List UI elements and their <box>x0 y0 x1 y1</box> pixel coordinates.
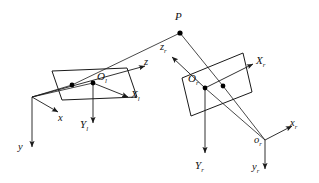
projection-rays <box>32 33 265 140</box>
right-camera-x-axis-line <box>265 126 292 140</box>
right-camera-y-axis-label: yr <box>252 162 259 175</box>
right-projected-point-marker <box>221 84 226 89</box>
left-principal-point-marker <box>91 81 96 86</box>
ray-right-camera-origin-to-left-plane <box>223 86 265 140</box>
world-coordinate-axes <box>32 66 145 147</box>
ray-right-camera-origin-to-right-principal-point <box>205 88 265 140</box>
right-image-axes <box>172 57 253 153</box>
left-image-x-axis-label: Xl <box>131 89 140 103</box>
right-image-y-axis-label: Yr <box>195 160 204 174</box>
right-image-origin-label: Or <box>188 73 199 87</box>
ray-scene-point-to-right-plane <box>180 33 223 86</box>
right-image-x-axis-line <box>205 64 253 88</box>
right-image-x-axis-label: Xr <box>256 55 265 69</box>
stereo-geometry-figure: P Ol Xl Yl x y z Or Xr Yr zr or xr yr <box>0 0 319 183</box>
world-z-axis-label: z <box>144 57 148 70</box>
diagram-canvas <box>0 0 319 183</box>
left-projected-point-marker <box>70 83 75 88</box>
world-z-axis-line <box>32 66 145 97</box>
right-camera-x-axis-label: xr <box>290 118 297 131</box>
right-principal-point-marker <box>203 86 208 91</box>
right-camera-axes <box>265 126 292 169</box>
scene-point-marker <box>177 30 182 35</box>
world-y-axis-label: y <box>18 142 23 155</box>
right-camera-origin-label: or <box>254 135 262 148</box>
left-image-x-axis-line <box>93 83 128 97</box>
scene-point-label: P <box>175 11 182 25</box>
left-image-y-axis-label: Yl <box>80 119 88 133</box>
world-x-axis-label: x <box>58 113 63 126</box>
left-image-axes <box>93 83 128 123</box>
right-camera-z-axis-label: zr <box>160 42 167 55</box>
left-image-origin-label: Ol <box>97 71 107 85</box>
world-x-axis-line <box>32 97 58 112</box>
